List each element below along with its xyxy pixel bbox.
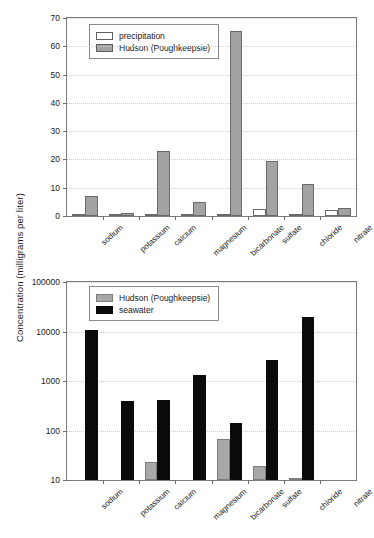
legend-item: seawater [96, 304, 210, 315]
bar [72, 214, 85, 216]
x-axis-tick [284, 480, 285, 484]
bar [230, 31, 243, 216]
x-axis-label: magnesium [212, 223, 249, 257]
legend-swatch-seawater [96, 306, 113, 314]
x-axis-tick [103, 216, 104, 220]
x-axis-tick [212, 480, 213, 484]
x-axis-tick [320, 216, 321, 220]
x-axis-tick [103, 480, 104, 484]
x-axis-label: nitrate [352, 223, 374, 245]
plot-area-bottom: Hudson (Poughkeepsie) seawater 101001000… [66, 281, 357, 481]
bar [145, 214, 158, 216]
legend-top: precipitation Hudson (Poughkeepsie) [89, 24, 219, 59]
y-axis-label: 100 [46, 426, 60, 436]
y-axis-tick [63, 159, 67, 160]
x-axis-label: sodium [100, 223, 125, 247]
bar [193, 202, 206, 216]
legend-bottom: Hudson (Poughkeepsie) seawater [89, 286, 219, 321]
gridline [67, 103, 356, 104]
y-axis-label: 10000 [36, 327, 60, 337]
legend-item: precipitation [96, 30, 210, 41]
x-axis-tick [139, 216, 140, 220]
x-axis-label: magnesium [212, 487, 249, 521]
bar [217, 439, 230, 480]
y-axis-label: 70 [51, 13, 60, 23]
plot-area-top: precipitation Hudson (Poughkeepsie) 0102… [66, 17, 357, 217]
y-axis-label: 50 [51, 70, 60, 80]
chart-panel-top: precipitation Hudson (Poughkeepsie) 0102… [0, 0, 365, 268]
bar [181, 214, 194, 216]
bar [121, 213, 134, 216]
bar [217, 214, 230, 216]
gridline [67, 159, 356, 160]
legend-label-precipitation: precipitation [119, 31, 165, 41]
bar [289, 478, 302, 480]
bar [109, 214, 122, 216]
bar [266, 161, 279, 216]
chart-panel-bottom: Hudson (Poughkeepsie) seawater 101001000… [0, 268, 365, 538]
x-axis-label: sodium [100, 487, 125, 511]
gridline [67, 18, 356, 19]
y-axis-label: 30 [51, 126, 60, 136]
gridline [67, 75, 356, 76]
gridline [67, 131, 356, 132]
y-axis-label: 20 [51, 154, 60, 164]
x-axis-label: potassium [138, 487, 171, 518]
x-axis-label: nitrate [352, 487, 374, 509]
legend-label-seawater: seawater [119, 305, 154, 315]
bar [302, 184, 315, 216]
y-axis-tick [63, 431, 67, 432]
y-axis-tick [63, 332, 67, 333]
y-axis-label: 10 [51, 183, 60, 193]
y-axis-tick [63, 75, 67, 76]
x-axis-label: chloride [317, 487, 344, 512]
y-axis-tick [63, 282, 67, 283]
x-axis-tick [175, 216, 176, 220]
bar [325, 210, 338, 216]
legend-swatch-hudson [96, 294, 113, 302]
y-axis-tick [63, 18, 67, 19]
y-axis-label: 40 [51, 98, 60, 108]
legend-item: Hudson (Poughkeepsie) [96, 292, 210, 303]
x-axis-label: bicarbonate [248, 223, 285, 258]
y-axis-label: 1000 [41, 376, 60, 386]
legend-label-hudson: Hudson (Poughkeepsie) [119, 293, 210, 303]
x-axis-tick [212, 216, 213, 220]
y-axis-tick [63, 188, 67, 189]
y-axis-tick [63, 216, 67, 217]
y-axis-label: 100000 [32, 277, 60, 287]
y-axis-tick [63, 103, 67, 104]
x-axis-tick [175, 480, 176, 484]
x-axis-label: chloride [317, 223, 344, 248]
x-axis-tick [248, 216, 249, 220]
x-axis-tick [139, 480, 140, 484]
y-axis-tick [63, 131, 67, 132]
y-axis-label: 60 [51, 41, 60, 51]
y-axis-tick [63, 46, 67, 47]
bar [253, 466, 266, 480]
legend-swatch-hudson [96, 44, 113, 52]
y-axis-label: 10 [51, 475, 60, 485]
x-axis-label: calcium [172, 487, 198, 512]
bar [85, 196, 98, 216]
legend-item: Hudson (Poughkeepsie) [96, 42, 210, 53]
bar [193, 375, 206, 480]
bar [85, 330, 98, 480]
bar [253, 209, 266, 216]
x-axis-label: potassium [138, 223, 171, 254]
x-axis-tick [320, 480, 321, 484]
x-axis-label: bicarbonate [248, 487, 285, 522]
bar [230, 423, 243, 480]
bar [121, 401, 134, 480]
x-axis-tick [284, 216, 285, 220]
bar [157, 151, 170, 216]
bar [145, 462, 158, 480]
y-axis-label: 0 [55, 211, 60, 221]
legend-swatch-precipitation [96, 32, 113, 40]
bar [157, 400, 170, 480]
x-axis-tick [248, 480, 249, 484]
gridline [67, 46, 356, 47]
bar [289, 214, 302, 216]
gridline [67, 282, 356, 283]
